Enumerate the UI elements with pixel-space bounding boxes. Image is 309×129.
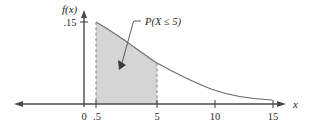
figure-canvas: f(x) x .15 0 .5 5 10 15 P(X ≤ 5)	[0, 0, 309, 129]
x-tick-label-05: .5	[93, 111, 101, 122]
x-tick-label-10: 10	[210, 111, 221, 122]
x-axis-left-arrow-icon	[14, 101, 23, 107]
x-tick-label-0: 0	[81, 111, 86, 122]
x-axis-title: x	[292, 98, 298, 110]
x-tick-label-15: 15	[268, 111, 279, 122]
x-tick-label-5: 5	[154, 111, 159, 122]
x-axis-right-arrow-icon	[277, 101, 286, 107]
y-axis-arrow-icon	[81, 10, 87, 18]
probability-annotation-label: P(X ≤ 5)	[144, 16, 182, 28]
shaded-probability-region	[96, 22, 157, 104]
probability-density-figure: f(x) x .15 0 .5 5 10 15 P(X ≤ 5)	[0, 0, 309, 129]
y-tick-label-015: .15	[63, 17, 76, 28]
y-axis-title: f(x)	[62, 3, 78, 16]
